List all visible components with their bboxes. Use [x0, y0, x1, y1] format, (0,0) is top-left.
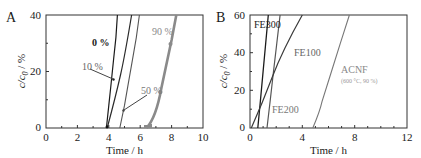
leader-line-50-percent [124, 95, 147, 110]
panel-a-ytick-label: 0 [36, 121, 42, 133]
label-10-percent: 10 % [82, 61, 103, 72]
panel-a-xtick-label: 6 [137, 131, 143, 143]
panel-a-xtick-label: 8 [169, 131, 175, 143]
label-fe300: FE300 [254, 19, 281, 30]
panel-a-letter: A [6, 10, 17, 25]
panel-b-xtick-label: 0 [247, 131, 253, 143]
panel-a-xtick-label: 4 [106, 131, 112, 143]
panel-b: B 0 4 8 12 0 20 40 [216, 9, 413, 156]
label-fe200: FE200 [272, 104, 299, 115]
label-fe100: FE100 [294, 47, 321, 58]
panel-a-xtick-label: 0 [43, 131, 49, 143]
panel-b-x-axis-title: Time / h [310, 144, 347, 156]
leader-dot-10-percent [112, 78, 114, 80]
figure: A 0 2 4 6 8 10 0 20 40 [0, 0, 421, 158]
curve-fe300 [258, 15, 269, 128]
curve-0-origin-marker [106, 126, 109, 129]
leader-dot-50-percent [122, 109, 124, 111]
label-90-percent: 90 % [152, 26, 173, 37]
panel-b-ytick-label: 40 [234, 46, 246, 58]
panel-b-ytick-label: 60 [234, 9, 246, 21]
panel-a-x-axis-title: Time / h [106, 144, 143, 156]
curve-10-percent [107, 15, 131, 128]
panel-a-ytick-label: 20 [30, 65, 42, 77]
panel-b-xtick-label: 8 [352, 131, 358, 143]
panel-b-letter: B [216, 10, 225, 25]
panel-a-xtick-label: 10 [198, 131, 210, 143]
panel-b-xtick-label: 12 [402, 131, 413, 143]
label-acnf: ACNF [341, 64, 368, 75]
panel-a-ytick-label: 40 [30, 9, 42, 21]
panel-b-ytick-label: 0 [240, 121, 246, 133]
label-50-percent: 50 % [141, 85, 162, 96]
label-acnf-conditions: (600 °C, 90 %) [341, 78, 377, 85]
panel-b-ytick-label: 20 [234, 84, 246, 96]
panel-a: A 0 2 4 6 8 10 0 20 40 [6, 9, 209, 156]
panel-a-xtick-label: 2 [75, 131, 81, 143]
panel-b-y-axis-title: c/c0 / % [217, 54, 232, 89]
panel-b-xtick-label: 4 [300, 131, 306, 143]
label-0-percent: 0 % [92, 37, 110, 48]
panel-a-y-axis-title: c/c0 / % [15, 54, 30, 89]
